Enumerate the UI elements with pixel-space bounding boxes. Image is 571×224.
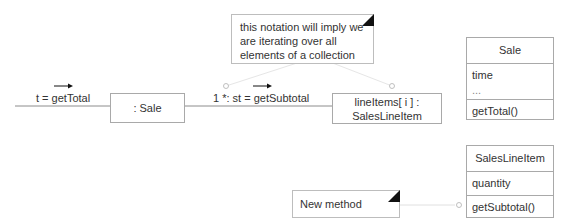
class-sale[interactable]: Sale time ... getTotal() (466, 37, 554, 120)
object-line-items[interactable]: lineItems[ i ] : SalesLineItem (332, 93, 442, 124)
message-arrow-icon (253, 84, 272, 89)
message-get-total: t = getTotal (36, 92, 90, 104)
object-sale[interactable]: : Sale (110, 93, 185, 123)
note-fold-icon (376, 190, 400, 202)
attribute: time (472, 67, 548, 84)
object-line-items-label-1: lineItems[ i ] : (355, 95, 420, 109)
new-method-note[interactable]: New method (292, 190, 400, 218)
message-get-subtotal: 1 *: st = getSubtotal (213, 92, 309, 104)
class-sales-line-item-attributes: quantity (467, 171, 553, 195)
class-sale-name: Sale (467, 38, 553, 63)
class-sale-attributes: time ... (467, 63, 553, 99)
message-arrow-icon (54, 84, 73, 89)
object-sale-label: : Sale (133, 101, 161, 115)
attribute: quantity (472, 175, 548, 192)
note-fold-icon (350, 14, 374, 26)
note-line: are iterating over all (240, 34, 365, 48)
method: getSubtotal() (472, 199, 548, 216)
class-sales-line-item-methods: getSubtotal() (467, 195, 553, 219)
method: getTotal() (472, 103, 548, 120)
iteration-note[interactable]: this notation will imply we are iteratin… (231, 14, 374, 64)
note-anchor-line (226, 62, 300, 86)
anchor-circle-icon (390, 84, 395, 89)
note-line: this notation will imply we (240, 20, 365, 34)
attribute: ... (472, 84, 548, 96)
object-line-items-label-2: SalesLineItem (352, 109, 422, 123)
anchor-circle-icon (224, 84, 229, 89)
class-sales-line-item-name: SalesLineItem (467, 146, 553, 171)
anchor-circle-icon (457, 203, 462, 208)
note-anchor-line (330, 62, 392, 86)
note-line: elements of a collection (240, 48, 365, 62)
class-sales-line-item[interactable]: SalesLineItem quantity getSubtotal() (466, 145, 554, 218)
class-sale-methods: getTotal() (467, 99, 553, 123)
